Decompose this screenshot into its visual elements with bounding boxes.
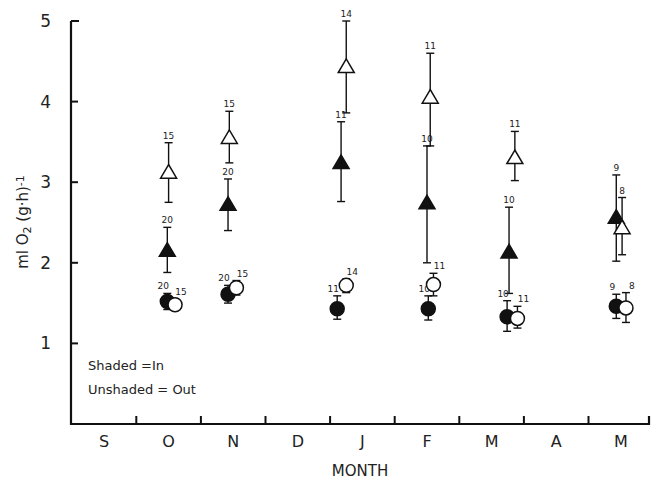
sample-size-label: 8 <box>619 186 625 196</box>
data-marks: 2020111010915151411118202011101091515141… <box>158 9 636 331</box>
series-triangle-open: 15151411118 <box>161 9 630 255</box>
sample-size-label: 9 <box>609 282 615 292</box>
x-tick-label: M <box>614 432 628 451</box>
data-point: 10 <box>501 195 517 293</box>
y-tick-label: 3 <box>40 172 51 192</box>
x-axis-ticks: SONDJFMAM <box>99 416 628 451</box>
data-point: 20 <box>159 215 175 272</box>
sample-size-label: 10 <box>497 289 509 299</box>
y-axis-label: ml O2 (g·h)-1 <box>14 175 35 269</box>
sample-size-label: 10 <box>421 134 433 144</box>
sample-size-label: 8 <box>629 281 635 291</box>
y-axis-ticks: 12345 <box>40 11 78 353</box>
marker-circle <box>339 278 353 292</box>
marker-circle <box>510 311 524 325</box>
x-tick-label: A <box>551 432 562 451</box>
marker-circle <box>330 302 344 316</box>
y-tick-label: 1 <box>40 333 51 353</box>
x-tick-label: J <box>359 432 365 451</box>
marker-triangle <box>419 195 435 209</box>
data-point: 11 <box>510 294 529 328</box>
sample-size-label: 11 <box>509 119 520 129</box>
sample-size-label: 11 <box>434 261 445 271</box>
sample-size-label: 20 <box>158 281 170 291</box>
marker-triangle <box>220 197 236 211</box>
marker-triangle <box>159 243 175 257</box>
y-tick-label: 4 <box>40 92 51 112</box>
sample-size-label: 15 <box>237 269 248 279</box>
sample-size-label: 11 <box>327 284 338 294</box>
sample-size-label: 11 <box>425 41 436 51</box>
series-circle-filled: 20201110109 <box>158 273 624 331</box>
sample-size-label: 11 <box>518 294 529 304</box>
data-point: 15 <box>161 131 177 203</box>
legend-entry-in: Shaded =In <box>88 358 164 373</box>
sample-size-label: 20 <box>218 273 230 283</box>
sample-size-label: 11 <box>335 110 346 120</box>
sample-size-label: 20 <box>162 215 174 225</box>
sample-size-label: 9 <box>613 163 619 173</box>
sample-size-label: 20 <box>222 167 234 177</box>
marker-triangle <box>161 165 177 179</box>
sample-size-label: 10 <box>503 195 515 205</box>
marker-triangle <box>221 130 237 144</box>
marker-circle <box>421 302 435 316</box>
marker-triangle <box>333 155 349 169</box>
respiration-chart: 12345 SONDJFMAM ml O2 (g·h)-1 MONTH Shad… <box>0 0 659 490</box>
y-tick-label: 2 <box>40 253 51 273</box>
marker-triangle <box>501 244 517 258</box>
data-point: 10 <box>497 289 514 332</box>
sample-size-label: 15 <box>163 131 174 141</box>
data-point: 11 <box>333 110 349 202</box>
data-point: 11 <box>426 261 445 296</box>
x-tick-label: N <box>227 432 239 451</box>
marker-triangle <box>422 90 438 104</box>
legend: Shaded =In Unshaded = Out <box>88 358 196 397</box>
data-point: 15 <box>168 287 187 312</box>
series-circle-open: 15151411118 <box>168 261 635 328</box>
data-point: 15 <box>229 269 248 296</box>
marker-circle <box>619 301 633 315</box>
data-point: 20 <box>220 167 236 231</box>
data-point: 11 <box>422 41 438 146</box>
x-axis-label: MONTH <box>332 462 388 480</box>
data-point: 10 <box>419 134 435 263</box>
marker-triangle <box>507 150 523 164</box>
legend-entry-out: Unshaded = Out <box>88 382 196 397</box>
marker-circle <box>168 298 182 312</box>
x-tick-label: M <box>485 432 499 451</box>
data-point: 14 <box>339 267 358 293</box>
data-point: 14 <box>338 9 354 113</box>
x-tick-label: O <box>162 432 175 451</box>
x-tick-label: S <box>99 432 109 451</box>
x-tick-label: D <box>292 432 304 451</box>
data-point: 11 <box>507 119 523 180</box>
marker-triangle <box>338 59 354 73</box>
sample-size-label: 15 <box>175 287 186 297</box>
data-point: 15 <box>221 99 237 163</box>
marker-circle <box>426 278 440 292</box>
sample-size-label: 15 <box>224 99 235 109</box>
y-tick-label: 5 <box>40 11 51 31</box>
sample-size-label: 14 <box>347 267 359 277</box>
sample-size-label: 14 <box>341 9 353 19</box>
marker-circle <box>229 281 243 295</box>
x-tick-label: F <box>422 432 431 451</box>
